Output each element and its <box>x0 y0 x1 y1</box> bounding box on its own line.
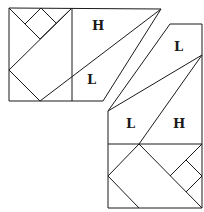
label-top-l: L <box>87 72 96 87</box>
label-top-h: H <box>92 18 104 33</box>
label-right-l: L <box>174 39 183 54</box>
upper-piece: H L <box>9 8 161 101</box>
dissection-diagram: H L L L H <box>0 0 204 212</box>
label-bottom-l: L <box>126 116 135 131</box>
lower-piece: L L H <box>108 24 202 208</box>
label-bottom-h: H <box>173 116 185 131</box>
diagram-canvas: H L L L H <box>0 0 204 212</box>
